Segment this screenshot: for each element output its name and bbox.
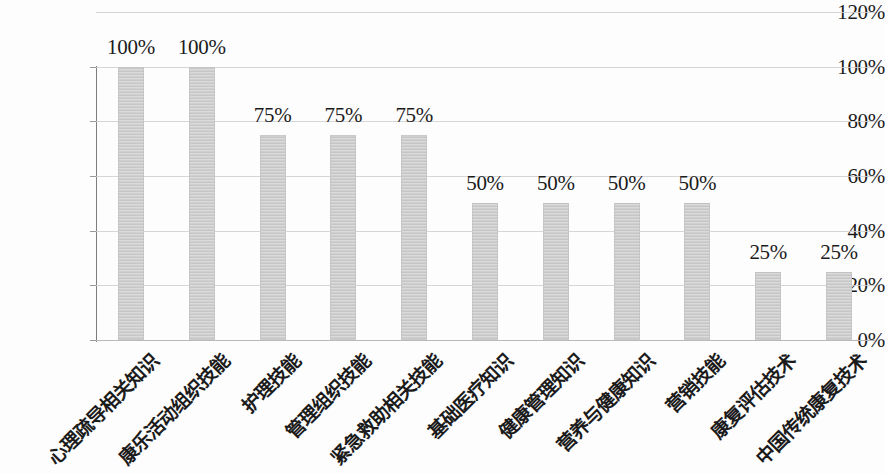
y-tick-mark [90,340,96,341]
bar-data-label: 75% [374,103,454,128]
bar-data-label: 25% [728,240,808,265]
bar[interactable] [401,135,427,340]
bar-data-label: 100% [162,35,242,60]
gridline-120pct [96,12,875,13]
y-tick-mark [90,285,96,286]
bar[interactable] [118,67,144,340]
bar[interactable] [260,135,286,340]
bar[interactable] [826,272,852,340]
y-tick-mark [90,231,96,232]
bar[interactable] [189,67,215,340]
bar[interactable] [330,135,356,340]
bar[interactable] [472,203,498,340]
bar[interactable] [543,203,569,340]
bar-chart: 0%20%40%60%80%100%120% 心理疏导相关知识康乐活动组织技能护… [0,0,885,474]
bar[interactable] [755,272,781,340]
bar-data-label: 50% [587,171,667,196]
y-tick-mark [90,176,96,177]
bar[interactable] [684,203,710,340]
bar-data-label: 25% [799,240,879,265]
bar-data-label: 75% [303,103,383,128]
y-tick-mark [90,67,96,68]
bar-data-label: 50% [657,171,737,196]
bar-data-label: 100% [91,35,171,60]
bar-data-label: 50% [445,171,525,196]
y-tick-mark [90,121,96,122]
bar-data-label: 75% [233,103,313,128]
bar-data-label: 50% [516,171,596,196]
bar[interactable] [614,203,640,340]
gridline-0pct [96,340,875,341]
